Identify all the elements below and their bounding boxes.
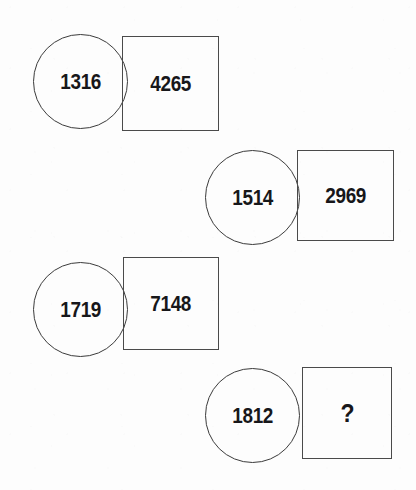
circle-value-1: 1316 [60,71,101,93]
square-value-3: 7148 [151,293,192,315]
puzzle-canvas: 1316 4265 1514 2969 1719 7148 1812 ? [0,0,416,490]
circle-shape-4[interactable]: 1812 [205,368,300,463]
square-shape-1[interactable]: 4265 [122,36,219,131]
square-value-2: 2969 [325,185,366,207]
circle-shape-3[interactable]: 1719 [33,262,128,357]
circle-shape-1[interactable]: 1316 [33,34,128,129]
square-shape-4-unknown[interactable]: ? [302,367,392,459]
square-shape-3[interactable]: 7148 [123,257,219,350]
square-value-1: 4265 [150,73,191,95]
circle-value-2: 1514 [232,187,273,209]
circle-value-3: 1719 [60,299,101,321]
circle-shape-2[interactable]: 1514 [205,150,300,245]
square-shape-2[interactable]: 2969 [297,150,394,241]
square-value-4-unknown: ? [340,401,354,426]
circle-value-4: 1812 [232,405,273,427]
